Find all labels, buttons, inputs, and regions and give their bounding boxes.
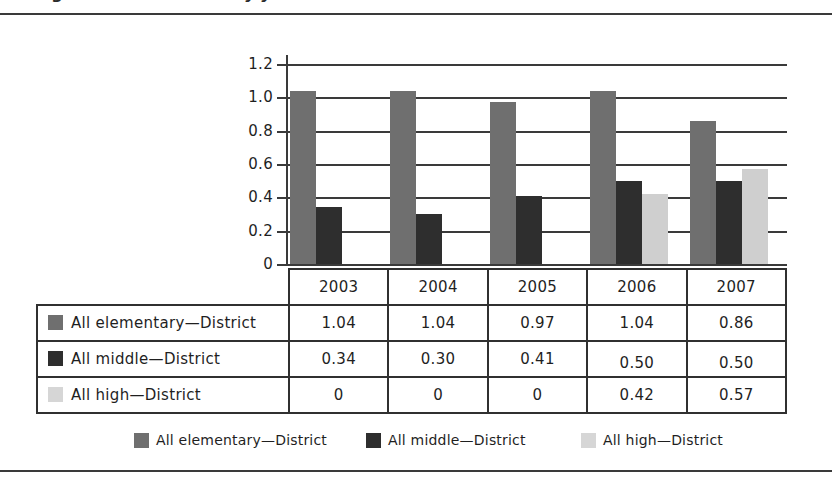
bar-2007-series-1: [716, 181, 742, 264]
table-cell-value: 0.34: [321, 350, 356, 368]
figure-title: Figure: district ratios by year: [36, 0, 736, 6]
table-header-2006: 2006: [587, 269, 686, 305]
y-axis-label: 1.2: [248, 55, 273, 73]
bar-2006-series-1: [616, 181, 642, 264]
bar-2003-series-0: [290, 91, 316, 264]
table-cell: 0.42: [587, 377, 686, 413]
table-cell-value: 0.30: [421, 350, 456, 368]
table-cell: 1.04: [388, 305, 487, 341]
series-name: All middle—District: [71, 350, 220, 368]
table-cell-value: 1.04: [620, 314, 655, 332]
table-header-2003: 2003: [289, 269, 388, 305]
table-header-2007: 2007: [687, 269, 786, 305]
table-row: All high—District0000.420.57: [37, 377, 786, 413]
data-table: 20032004200520062007All elementary—Distr…: [36, 268, 787, 414]
table-cell-value: 0.57: [719, 386, 754, 404]
gridline: [287, 97, 787, 99]
legend-item-1: All middle—District: [366, 432, 526, 448]
table-cell: 0: [289, 377, 388, 413]
table-header-row: 20032004200520062007: [37, 269, 786, 305]
y-axis-label: 0.8: [248, 122, 273, 140]
y-axis-label: 1.0: [248, 88, 273, 106]
table-corner-cell: [37, 269, 289, 305]
table-cell-value: 0.50: [719, 354, 754, 372]
y-axis-tick: [277, 231, 287, 233]
legend-label: All elementary—District: [156, 432, 327, 448]
bar-2006-series-2: [642, 194, 668, 264]
table-cell: 0.97: [488, 305, 587, 341]
table-cell: 0.34: [289, 341, 388, 377]
table-cell-value: 0.86: [719, 314, 754, 332]
series-swatch-icon: [48, 387, 63, 402]
table-row-label: All high—District: [37, 377, 289, 413]
table-cell-value: 0.97: [520, 314, 555, 332]
bar-2004-series-1: [416, 214, 442, 264]
table-cell: 0.50: [687, 341, 786, 377]
table-cell-value: 0: [433, 386, 443, 404]
table-header-2005: 2005: [488, 269, 587, 305]
table-cell: 0.86: [687, 305, 786, 341]
table-cell-value: 1.04: [421, 314, 456, 332]
y-axis: [286, 55, 288, 266]
table-row: All elementary—District1.041.040.971.040…: [37, 305, 786, 341]
table-header-2004: 2004: [388, 269, 487, 305]
legend-item-2: All high—District: [581, 432, 723, 448]
table-row-label: All middle—District: [37, 341, 289, 377]
table-cell-value: 0.41: [520, 350, 555, 368]
table-cell-value: 0: [334, 386, 344, 404]
plot-area: 1.21.00.80.60.40.20: [287, 64, 787, 264]
series-name: All high—District: [71, 386, 201, 404]
series-swatch-icon: [48, 351, 63, 366]
chart-figure: Figure: district ratios by year 1.21.00.…: [0, 0, 832, 494]
table-cell-value: 0: [533, 386, 543, 404]
legend-swatch-icon: [366, 433, 381, 448]
legend-swatch-icon: [134, 433, 149, 448]
y-axis-tick: [277, 264, 287, 266]
y-axis-tick: [277, 64, 287, 66]
table-cell: 1.04: [587, 305, 686, 341]
legend-label: All high—District: [603, 432, 723, 448]
bar-2004-series-0: [390, 91, 416, 264]
legend-item-0: All elementary—District: [134, 432, 327, 448]
y-axis-tick: [277, 197, 287, 199]
bar-2007-series-0: [690, 121, 716, 264]
bar-2003-series-1: [316, 207, 342, 264]
top-rule: [0, 13, 832, 15]
table-cell: 0.50: [587, 341, 686, 377]
table-row-label: All elementary—District: [37, 305, 289, 341]
table-cell: 0: [388, 377, 487, 413]
chart-legend: All elementary—DistrictAll middle—Distri…: [36, 432, 787, 454]
table-row: All middle—District0.340.300.410.500.50: [37, 341, 786, 377]
legend-swatch-icon: [581, 433, 596, 448]
y-axis-label: 0.2: [248, 222, 273, 240]
gridline: [287, 264, 787, 266]
table-cell: 1.04: [289, 305, 388, 341]
y-axis-tick: [277, 131, 287, 133]
table-cell: 0: [488, 377, 587, 413]
table-cell: 0.41: [488, 341, 587, 377]
legend-label: All middle—District: [388, 432, 526, 448]
y-axis-label: 0.6: [248, 155, 273, 173]
series-swatch-icon: [48, 315, 63, 330]
y-axis-tick: [277, 97, 287, 99]
bar-2007-series-2: [742, 169, 768, 264]
table-cell-value: 0.42: [620, 386, 655, 404]
table-cell-value: 0.50: [620, 354, 655, 372]
y-axis-tick: [277, 164, 287, 166]
series-name: All elementary—District: [71, 314, 256, 332]
table-cell: 0.30: [388, 341, 487, 377]
gridline: [287, 64, 787, 66]
table-cell-value: 1.04: [321, 314, 356, 332]
y-axis-label: 0.4: [248, 188, 273, 206]
bar-2005-series-1: [516, 196, 542, 264]
bar-2006-series-0: [590, 91, 616, 264]
bottom-rule: [0, 470, 832, 472]
table-cell: 0.57: [687, 377, 786, 413]
bar-2005-series-0: [490, 102, 516, 264]
